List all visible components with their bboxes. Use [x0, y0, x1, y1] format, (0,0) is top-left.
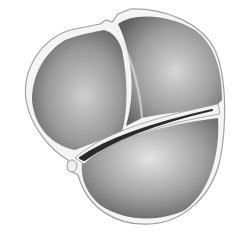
organ-illustration [0, 0, 241, 237]
illustration [0, 0, 241, 237]
left-knob [67, 160, 77, 172]
